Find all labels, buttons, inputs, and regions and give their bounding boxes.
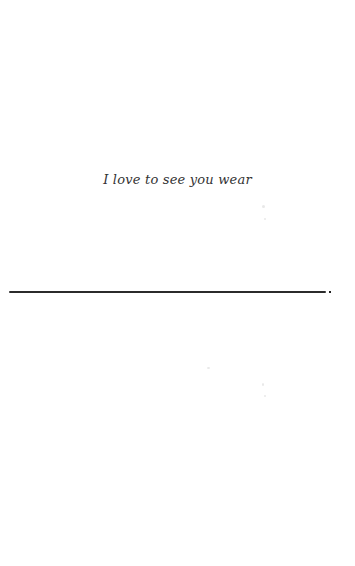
horizontal-divider — [9, 291, 326, 293]
paper-speck — [262, 205, 265, 208]
paper-speck — [264, 218, 266, 220]
paper-speck — [207, 367, 210, 369]
handwritten-text-line: I love to see you wear — [0, 172, 355, 187]
paper-speck — [264, 395, 266, 397]
paper-speck — [262, 383, 264, 386]
divider-end-dot — [329, 291, 331, 293]
